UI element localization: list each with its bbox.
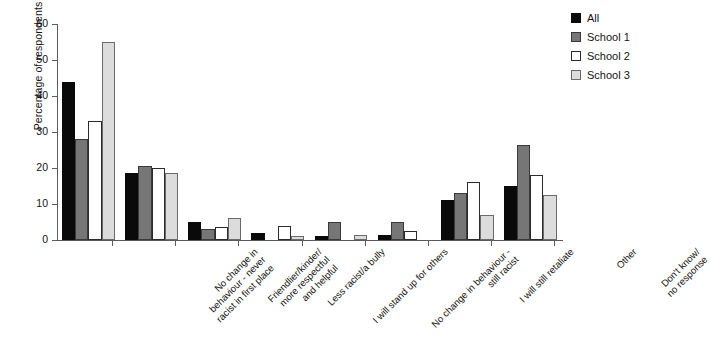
y-tick-mark (52, 60, 57, 61)
legend-item-school-3: School 3 (571, 65, 630, 84)
bar (378, 235, 391, 240)
bar-group (188, 24, 241, 240)
bar (278, 226, 291, 240)
x-tick-mark (112, 240, 113, 246)
bar (543, 195, 556, 240)
bar (441, 200, 454, 240)
bar (328, 222, 341, 240)
bar (517, 145, 530, 240)
bar (62, 82, 75, 240)
y-tick-mark (52, 204, 57, 205)
legend-item-school-2: School 2 (571, 46, 630, 65)
bar (102, 42, 115, 240)
plot-area: 0102030405060 (57, 24, 562, 240)
legend-label-school-2: School 2 (587, 50, 630, 62)
legend-label-school-1: School 1 (587, 31, 630, 43)
bar (391, 222, 404, 240)
bar (404, 231, 417, 240)
x-tick-mark (491, 240, 492, 246)
y-axis-line (57, 24, 58, 241)
y-tick-label: 30 (36, 125, 48, 137)
legend-swatch-school-3-icon (571, 70, 581, 80)
bar (467, 182, 480, 240)
x-tick-mark (175, 240, 176, 246)
bar (215, 227, 228, 240)
bar (291, 236, 304, 240)
bar (138, 166, 151, 240)
x-tick-mark (238, 240, 239, 246)
bar-group (125, 24, 178, 240)
x-tick-mark (365, 240, 366, 246)
bar (75, 139, 88, 240)
bar (88, 121, 101, 240)
bar (251, 233, 264, 240)
y-tick-label: 10 (36, 197, 48, 209)
y-tick-mark (52, 240, 57, 241)
x-tick-mark (428, 240, 429, 246)
bar (165, 173, 178, 240)
bar-group (378, 24, 431, 240)
legend-swatch-all-icon (571, 13, 581, 23)
legend: All School 1 School 2 School 3 (571, 8, 630, 84)
bar-group (441, 24, 494, 240)
bar (125, 173, 138, 240)
legend-swatch-school-1-icon (571, 32, 581, 42)
bar (504, 186, 517, 240)
legend-item-school-1: School 1 (571, 27, 630, 46)
bar (354, 235, 367, 240)
x-axis-line (57, 240, 563, 241)
y-tick-label: 0 (42, 233, 48, 245)
x-tick-mark (302, 240, 303, 246)
y-tick-mark (52, 132, 57, 133)
y-tick-label: 60 (36, 17, 48, 29)
bar (201, 229, 214, 240)
y-tick-mark (52, 24, 57, 25)
legend-label-all: All (587, 12, 599, 24)
bar (228, 218, 241, 240)
bar-group (251, 24, 304, 240)
bar-group (504, 24, 557, 240)
x-category-label: No change in behaviour - still racist (399, 246, 521, 357)
bar-group (315, 24, 368, 240)
legend-item-all: All (571, 8, 630, 27)
legend-label-school-3: School 3 (587, 69, 630, 81)
bar (454, 193, 467, 240)
y-tick-mark (52, 168, 57, 169)
bar (188, 222, 201, 240)
y-tick-label: 50 (36, 53, 48, 65)
y-tick-label: 20 (36, 161, 48, 173)
y-tick-label: 40 (36, 89, 48, 101)
x-tick-mark (554, 240, 555, 246)
legend-swatch-school-2-icon (571, 51, 581, 61)
bar (480, 215, 493, 240)
bar-group (62, 24, 115, 240)
bar (152, 168, 165, 240)
x-category-label: Don't know/ no response (588, 246, 710, 357)
bar (315, 236, 328, 240)
bar (530, 175, 543, 240)
y-tick-mark (52, 96, 57, 97)
